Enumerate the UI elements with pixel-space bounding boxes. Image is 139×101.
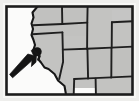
border-az-nm	[87, 49, 88, 79]
map-canvas[interactable]	[0, 0, 139, 101]
border-nm-tx	[111, 76, 133, 77]
border-az-south	[74, 78, 88, 79]
border-az-ca	[74, 79, 75, 95]
border-nm-co	[88, 77, 111, 78]
border-ut-co	[87, 48, 111, 49]
border-nv-ut	[63, 49, 87, 50]
border-wa-or	[33, 24, 63, 25]
locator-map-figure: Western United States locator map	[0, 0, 139, 101]
border-mt-sd-upper	[112, 21, 133, 22]
border-co-ne	[111, 47, 132, 48]
